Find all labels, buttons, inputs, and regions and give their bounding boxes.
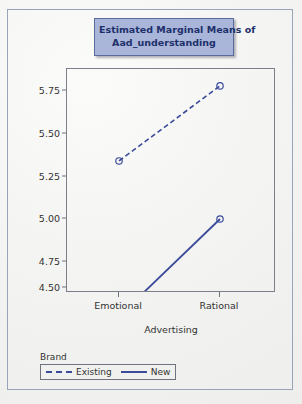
dashed-line-icon bbox=[46, 371, 72, 373]
series-new bbox=[116, 216, 223, 291]
plot-frame bbox=[66, 68, 275, 292]
series-new-line bbox=[119, 219, 220, 291]
legend-title: Brand bbox=[40, 352, 176, 362]
solid-line-icon bbox=[121, 371, 147, 373]
series-existing bbox=[116, 83, 223, 164]
series-existing-point bbox=[217, 83, 223, 89]
series-existing-line bbox=[119, 86, 220, 161]
legend-item-existing[interactable]: Existing bbox=[46, 367, 112, 377]
legend-label: New bbox=[151, 367, 171, 377]
series-existing-point bbox=[116, 158, 122, 164]
chart-title-line-2: Aad_understanding bbox=[99, 37, 229, 50]
legend-label: Existing bbox=[76, 367, 112, 377]
chart-title: Estimated Marginal Means of Aad_understa… bbox=[94, 18, 234, 56]
legend: Brand Existing New bbox=[40, 352, 176, 380]
page-background: Estimated Marginal Means of Aad_understa… bbox=[0, 0, 302, 404]
legend-box: Existing New bbox=[40, 364, 176, 380]
legend-item-new[interactable]: New bbox=[121, 367, 171, 377]
plot-series-area bbox=[67, 69, 274, 291]
chart-title-line-1: Estimated Marginal Means of bbox=[99, 24, 229, 37]
